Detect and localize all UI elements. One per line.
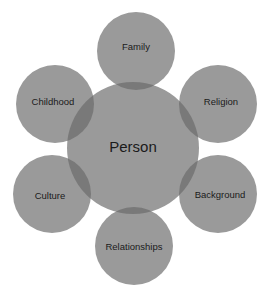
satellite-label-childhood: Childhood [32,96,75,107]
venn-diagram-svg: FamilyReligionBackgroundRelationshipsCul… [0,0,267,297]
satellite-label-religion: Religion [204,96,238,107]
satellite-label-family: Family [122,41,150,52]
center-label-person: Person [109,138,157,155]
satellite-label-background: Background [195,189,246,200]
venn-diagram-canvas: FamilyReligionBackgroundRelationshipsCul… [0,0,267,297]
satellite-label-culture: Culture [35,190,66,201]
satellite-label-relationships: Relationships [105,241,162,252]
